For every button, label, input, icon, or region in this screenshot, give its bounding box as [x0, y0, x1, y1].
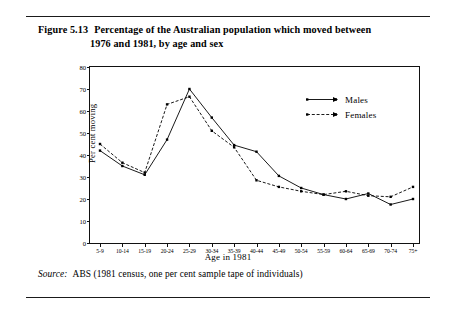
y-tick-label: 40 — [79, 152, 86, 159]
x-tick-mark — [145, 243, 146, 247]
x-tick-mark — [167, 243, 168, 247]
data-point-marker — [188, 88, 190, 90]
data-point-marker — [367, 195, 369, 197]
y-tick-label: 70 — [79, 86, 86, 93]
y-tick-mark — [87, 111, 91, 112]
y-tick-mark — [87, 221, 91, 222]
data-point-marker — [389, 203, 391, 205]
y-tick-label: 30 — [79, 174, 86, 181]
x-tick-mark — [368, 243, 369, 247]
figure-title-line1: Percentage of the Australian population … — [94, 24, 371, 35]
legend-label: Males — [345, 95, 368, 105]
data-point-marker — [144, 171, 146, 173]
chart-plot-area: Per cent moving 01020304050607080 5-910-… — [89, 66, 420, 244]
data-point-marker — [255, 179, 257, 181]
y-tick-label: 0 — [83, 240, 86, 247]
y-tick-mark — [87, 67, 91, 68]
y-tick-mark — [87, 177, 91, 178]
x-tick-mark — [324, 243, 325, 247]
data-point-marker — [278, 175, 280, 177]
data-point-marker — [345, 198, 347, 200]
legend-item-males: Males — [306, 92, 376, 107]
data-point-marker — [300, 187, 302, 189]
data-point-marker — [211, 130, 213, 132]
y-tick-label: 20 — [79, 196, 86, 203]
data-point-marker — [99, 143, 101, 145]
data-point-marker — [345, 190, 347, 192]
x-tick-mark — [100, 243, 101, 247]
source-text: ABS (1981 census, one per cent sample ta… — [73, 269, 303, 279]
data-point-marker — [412, 198, 414, 200]
data-point-marker — [367, 192, 369, 194]
y-tick-mark — [87, 89, 91, 90]
data-point-marker — [211, 116, 213, 118]
data-point-marker — [121, 165, 123, 167]
chart-legend: MalesFemales — [306, 92, 376, 122]
figure-card: Figure 5.13Percentage of the Australian … — [26, 16, 430, 298]
y-tick-label: 10 — [79, 218, 86, 225]
data-point-marker — [278, 186, 280, 188]
x-tick-mark — [279, 243, 280, 247]
x-tick-mark — [212, 243, 213, 247]
legend-swatch-females — [306, 110, 340, 119]
x-axis-label: Age in 1981 — [26, 252, 430, 262]
data-point-marker — [166, 138, 168, 140]
legend-swatch-males — [306, 95, 340, 104]
y-tick-label: 80 — [79, 64, 86, 71]
data-point-marker — [255, 151, 257, 153]
y-tick-mark — [87, 243, 91, 244]
x-tick-mark — [234, 243, 235, 247]
figure-number: Figure 5.13 — [38, 24, 88, 35]
x-tick-mark — [391, 243, 392, 247]
source-keyword: Source: — [38, 269, 68, 279]
figure-title: Figure 5.13Percentage of the Australian … — [38, 23, 418, 50]
x-tick-mark — [301, 243, 302, 247]
y-tick-mark — [87, 155, 91, 156]
x-tick-mark — [413, 243, 414, 247]
y-tick-label: 50 — [79, 130, 86, 137]
legend-item-females: Females — [306, 107, 376, 122]
data-point-marker — [144, 174, 146, 176]
x-tick-mark — [257, 243, 258, 247]
data-point-marker — [121, 162, 123, 164]
data-point-marker — [412, 186, 414, 188]
data-point-marker — [322, 193, 324, 195]
y-tick-label: 60 — [79, 108, 86, 115]
source-note: Source:ABS (1981 census, one per cent sa… — [38, 269, 303, 279]
data-point-marker — [166, 103, 168, 105]
x-tick-mark — [189, 243, 190, 247]
data-point-marker — [188, 96, 190, 98]
data-point-marker — [233, 144, 235, 146]
legend-label: Females — [345, 110, 376, 120]
x-tick-mark — [346, 243, 347, 247]
data-point-marker — [389, 196, 391, 198]
y-tick-mark — [87, 199, 91, 200]
data-point-marker — [99, 149, 101, 151]
figure-title-line2: 1976 and 1981, by age and sex — [90, 37, 418, 51]
data-point-marker — [300, 190, 302, 192]
x-tick-mark — [122, 243, 123, 247]
data-point-marker — [233, 146, 235, 148]
y-tick-mark — [87, 133, 91, 134]
